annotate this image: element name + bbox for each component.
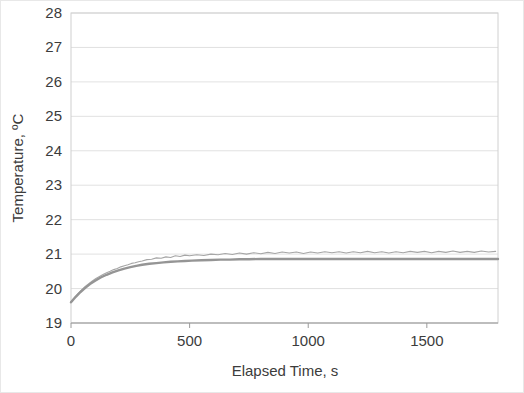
gridlines-group	[71, 13, 498, 323]
temperature-vs-time-chart: 19202122232425262728 050010001500 Elapse…	[1, 1, 524, 393]
x-tick-label-500: 500	[177, 332, 202, 349]
y-tick-label-28: 28	[45, 4, 62, 21]
series-line-1	[71, 259, 498, 302]
y-tick-label-23: 23	[45, 176, 62, 193]
series-group	[71, 251, 498, 302]
plot-border-group	[71, 13, 498, 323]
x-tick-label-0: 0	[67, 332, 75, 349]
plot-area-border	[71, 13, 498, 323]
x-tick-label-1000: 1000	[292, 332, 325, 349]
x-tick-label-1500: 1500	[410, 332, 443, 349]
y-axis-title: Temperature, ºC	[9, 113, 26, 222]
y-tick-label-25: 25	[45, 107, 62, 124]
y-tick-labels-group: 19202122232425262728	[45, 4, 62, 331]
y-tick-label-20: 20	[45, 280, 62, 297]
x-axis-title: Elapsed Time, s	[232, 362, 339, 379]
y-tick-label-19: 19	[45, 314, 62, 331]
y-tick-label-21: 21	[45, 245, 62, 262]
y-tick-label-22: 22	[45, 211, 62, 228]
x-axis-group	[71, 323, 498, 328]
chart-figure: 19202122232425262728 050010001500 Elapse…	[0, 0, 524, 393]
y-tick-label-24: 24	[45, 142, 62, 159]
y-tick-label-27: 27	[45, 38, 62, 55]
y-tick-label-26: 26	[45, 73, 62, 90]
x-tick-labels-group: 050010001500	[67, 332, 444, 349]
